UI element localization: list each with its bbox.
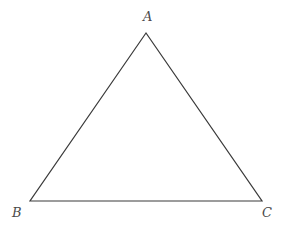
- vertex-label-c: C: [262, 206, 272, 219]
- vertex-label-a: A: [143, 10, 152, 23]
- vertex-label-b: B: [12, 206, 22, 219]
- triangle-outline: [30, 33, 262, 201]
- triangle-figure: [0, 0, 285, 231]
- diagram-canvas: A B C: [0, 0, 285, 231]
